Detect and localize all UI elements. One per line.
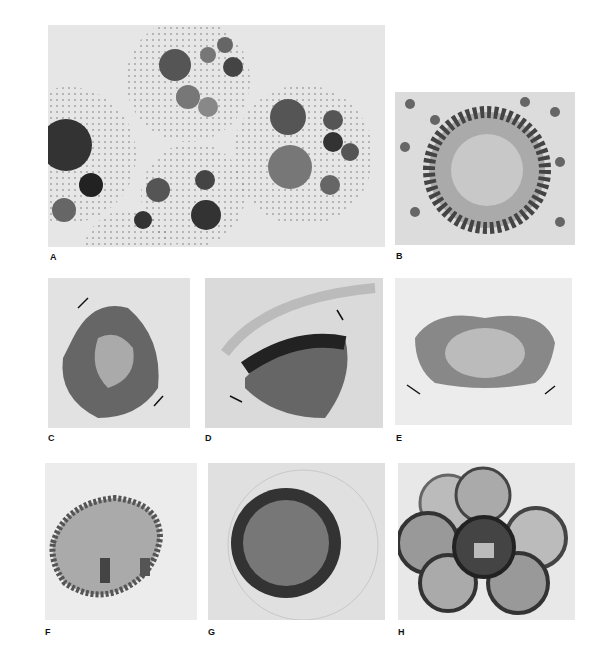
- panel-e-image: [395, 278, 572, 425]
- inverting-embryo-illustration: [205, 278, 383, 428]
- panel-c-image: [48, 278, 190, 428]
- panel-b-label: B: [396, 251, 403, 261]
- inverting-embryo-illustration: [395, 278, 572, 425]
- spheroids-illustration: [48, 25, 385, 247]
- late-inversion-embryo-illustration: [45, 463, 197, 620]
- panel-a-label: A: [50, 252, 57, 262]
- panel-h-label: H: [398, 627, 405, 637]
- panel-b-image: [395, 92, 575, 245]
- juvenile-spheroid-illustration: [208, 463, 385, 620]
- panel-d-label: D: [205, 433, 212, 443]
- panel-e-label: E: [396, 433, 402, 443]
- panel-h-image: [398, 463, 575, 620]
- panel-c-label: C: [48, 433, 55, 443]
- inverting-embryo-illustration: [48, 278, 190, 428]
- embryo-top-view-illustration: [395, 92, 575, 245]
- panel-d-image: [205, 278, 383, 428]
- panel-f-label: F: [45, 627, 51, 637]
- panel-a-image: [48, 25, 385, 247]
- spheroid-cluster-illustration: [398, 463, 575, 620]
- panel-g-label: G: [208, 627, 215, 637]
- panel-f-image: [45, 463, 197, 620]
- panel-g-image: [208, 463, 385, 620]
